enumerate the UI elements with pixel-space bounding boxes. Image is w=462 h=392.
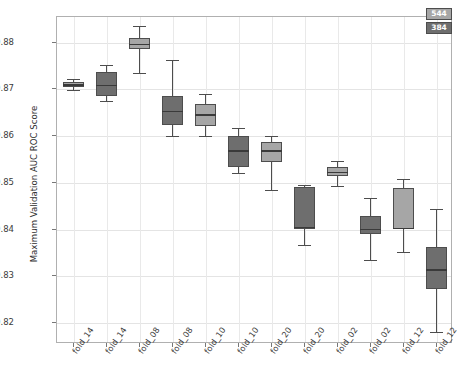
box-plot-item bbox=[327, 17, 347, 342]
cap-lower bbox=[364, 260, 377, 261]
y-tick-label: 0.83 bbox=[0, 270, 14, 280]
cap-upper bbox=[100, 65, 113, 66]
cap-lower bbox=[133, 73, 146, 74]
legend-entry: 544 bbox=[426, 8, 452, 20]
cap-upper bbox=[133, 26, 146, 27]
cap-upper bbox=[166, 60, 179, 61]
median-line bbox=[96, 85, 116, 86]
whisker-lower bbox=[271, 162, 272, 190]
median-line bbox=[63, 84, 83, 85]
y-axis-label: Maximum Validation AUC ROC Score bbox=[29, 64, 39, 304]
cap-upper bbox=[364, 198, 377, 199]
whisker-upper bbox=[403, 179, 404, 187]
box-plot-item bbox=[393, 17, 413, 342]
cap-lower bbox=[331, 186, 344, 187]
whisker-lower bbox=[403, 229, 404, 252]
whisker-upper bbox=[370, 198, 371, 216]
median-line bbox=[360, 229, 380, 230]
median-line bbox=[261, 150, 281, 151]
cap-upper bbox=[430, 209, 443, 210]
whisker-lower bbox=[304, 229, 305, 246]
cap-upper bbox=[232, 128, 245, 129]
cap-lower bbox=[397, 252, 410, 253]
y-tick-mark bbox=[52, 42, 56, 43]
median-line bbox=[195, 114, 215, 115]
plot-area bbox=[56, 16, 452, 343]
cap-upper bbox=[298, 185, 311, 186]
box-plot-item bbox=[96, 17, 116, 342]
cap-upper bbox=[67, 79, 80, 80]
box-plot-item bbox=[129, 17, 149, 342]
box-plot-item bbox=[63, 17, 83, 342]
box-quartile-rect bbox=[393, 188, 413, 229]
whisker-upper bbox=[205, 94, 206, 105]
y-tick-label: 0.85 bbox=[0, 177, 14, 187]
cap-lower bbox=[67, 90, 80, 91]
y-tick-mark bbox=[52, 182, 56, 183]
y-tick-label: 0.82 bbox=[0, 317, 14, 327]
cap-lower bbox=[430, 332, 443, 333]
y-tick-mark bbox=[52, 275, 56, 276]
box-plot-item bbox=[195, 17, 215, 342]
box-plot-item bbox=[228, 17, 248, 342]
box-plot-item bbox=[426, 17, 446, 342]
cap-lower bbox=[100, 101, 113, 102]
legend-label: 544 bbox=[431, 10, 447, 18]
box-quartile-rect bbox=[228, 136, 248, 168]
y-tick-label: 0.88 bbox=[0, 37, 14, 47]
cap-lower bbox=[166, 136, 179, 137]
cap-upper bbox=[397, 179, 410, 180]
legend-entry: 384 bbox=[426, 22, 452, 34]
y-tick-mark bbox=[52, 229, 56, 230]
whisker-upper bbox=[172, 60, 173, 96]
boxplot-figure: 0.820.830.840.850.860.870.88fold_14fold_… bbox=[0, 0, 462, 392]
y-tick-label: 0.86 bbox=[0, 130, 14, 140]
whisker-lower bbox=[337, 176, 338, 186]
box-plot-item bbox=[261, 17, 281, 342]
y-tick-mark bbox=[52, 88, 56, 89]
cap-lower bbox=[298, 245, 311, 246]
cap-lower bbox=[232, 173, 245, 174]
whisker-lower bbox=[139, 49, 140, 73]
whisker-upper bbox=[106, 65, 107, 72]
whisker-lower bbox=[370, 234, 371, 260]
box-plot-item bbox=[162, 17, 182, 342]
whisker-lower bbox=[205, 126, 206, 136]
cap-lower bbox=[265, 190, 278, 191]
legend-label: 384 bbox=[431, 24, 447, 32]
whisker-upper bbox=[139, 26, 140, 38]
median-line bbox=[129, 44, 149, 45]
y-tick-mark bbox=[52, 322, 56, 323]
box-quartile-rect bbox=[294, 187, 314, 229]
whisker-upper bbox=[238, 128, 239, 136]
whisker-upper bbox=[436, 209, 437, 246]
median-line bbox=[393, 228, 413, 229]
cap-upper bbox=[331, 161, 344, 162]
y-tick-label: 0.84 bbox=[0, 224, 14, 234]
median-line bbox=[426, 269, 446, 270]
whisker-lower bbox=[172, 125, 173, 136]
whisker-lower bbox=[436, 289, 437, 332]
box-quartile-rect bbox=[360, 216, 380, 235]
box-quartile-rect bbox=[261, 142, 281, 162]
cap-upper bbox=[265, 136, 278, 137]
median-line bbox=[327, 172, 347, 173]
median-line bbox=[294, 227, 314, 228]
y-tick-mark bbox=[52, 135, 56, 136]
legend-swatch: 544 bbox=[426, 8, 452, 20]
box-plot-item bbox=[360, 17, 380, 342]
cap-upper bbox=[199, 94, 212, 95]
box-plot-item bbox=[294, 17, 314, 342]
cap-lower bbox=[199, 136, 212, 137]
legend: 544384 bbox=[426, 8, 452, 34]
y-tick-label: 0.87 bbox=[0, 83, 14, 93]
median-line bbox=[162, 111, 182, 112]
median-line bbox=[228, 150, 248, 151]
legend-swatch: 384 bbox=[426, 22, 452, 34]
box-quartile-rect bbox=[426, 247, 446, 290]
